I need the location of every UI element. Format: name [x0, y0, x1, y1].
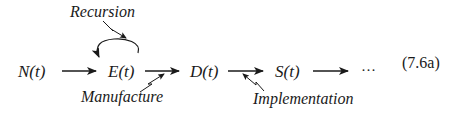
implementation-pointer-icon	[243, 74, 264, 91]
self-loop-arrow	[97, 39, 138, 57]
node-s: S(t)	[275, 63, 300, 80]
recursion-pointer-icon	[103, 21, 126, 38]
label-manufacture: Manufacture	[81, 89, 163, 105]
node-d: D(t)	[190, 63, 218, 80]
node-e: E(t)	[108, 63, 134, 80]
continuation-ellipsis: ···	[361, 63, 376, 78]
diagram-arrows	[0, 0, 460, 114]
equation-number: (7.6a)	[402, 55, 440, 71]
label-recursion: Recursion	[70, 4, 135, 20]
label-implementation: Implementation	[253, 91, 353, 107]
node-n: N(t)	[18, 63, 45, 80]
